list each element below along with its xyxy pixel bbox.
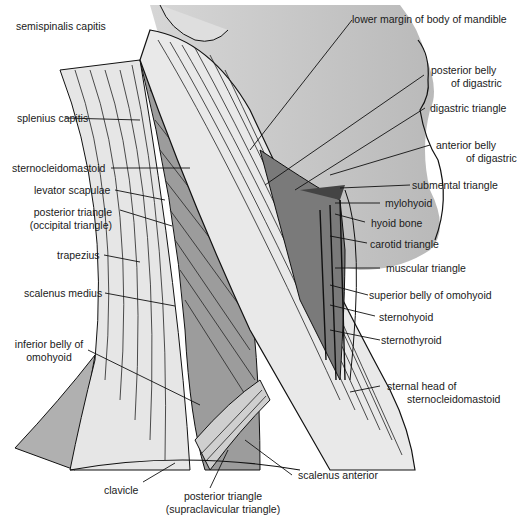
label-trapezius: trapezius [57, 249, 100, 262]
label-digastric-triangle: digastric triangle [430, 102, 506, 115]
label-line: inferior belly of [14, 338, 84, 351]
label-inferior-belly-omohyoid: inferior belly of omohyoid [14, 338, 84, 364]
label-line: (occipital triangle) [26, 219, 112, 232]
label-levator-scapulae: levator scapulae [34, 184, 110, 197]
label-hyoid-bone: hyoid bone [371, 217, 422, 230]
label-sternal-head: sternal head of sternocleidomastoid [387, 380, 500, 406]
label-posterior-triangle-occipital: posterior triangle (occipital triangle) [26, 206, 112, 232]
label-posterior-triangle-supraclavicular: posterior triangle (supraclavicular tria… [160, 490, 286, 516]
label-muscular-triangle: muscular triangle [386, 262, 466, 275]
label-semispinalis-capitis: semispinalis capitis [16, 20, 106, 33]
label-splenius-capitis: splenius capitis [17, 112, 88, 125]
label-line: posterior triangle [26, 206, 112, 219]
label-submental-triangle: submental triangle [412, 179, 498, 192]
label-clavicle: clavicle [104, 484, 138, 497]
label-lower-margin-mandible: lower margin of body of mandible [352, 13, 507, 26]
label-sternocleidomastoid: sternocleidomastoid [12, 162, 105, 175]
label-line: anterior belly [436, 139, 517, 152]
label-line: sternocleidomastoid [387, 393, 500, 406]
label-line: (supraclavicular triangle) [160, 503, 286, 516]
label-line: of digastric [431, 77, 502, 90]
label-line: sternal head of [387, 380, 500, 393]
label-posterior-belly-digastric: posterior belly of digastric [431, 64, 502, 90]
label-superior-belly-omohyoid: superior belly of omohyoid [369, 289, 492, 302]
label-anterior-belly-digastric: anterior belly of digastric [436, 139, 517, 165]
label-line: of digastric [436, 152, 517, 165]
label-mylohyoid: mylohyoid [385, 197, 432, 210]
label-line: omohyoid [14, 351, 84, 364]
label-sternohyoid: sternohyoid [379, 311, 433, 324]
label-sternothyroid: sternothyroid [381, 334, 442, 347]
label-carotid-triangle: carotid triangle [370, 238, 439, 251]
label-line: posterior belly [431, 64, 502, 77]
label-line: posterior triangle [160, 490, 286, 503]
label-scalenus-medius: scalenus medius [24, 287, 102, 300]
label-scalenus-anterior: scalenus anterior [298, 469, 378, 482]
